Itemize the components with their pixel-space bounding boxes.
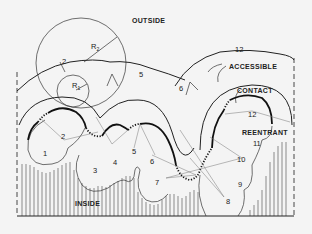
reentrant-label: REENTRANT bbox=[242, 129, 288, 136]
atom-7 bbox=[138, 170, 168, 202]
contact-arc-2 bbox=[48, 108, 86, 128]
atom-label-11: 11 bbox=[253, 139, 261, 148]
reentrant-arc-8-10 bbox=[200, 148, 212, 170]
atom-label-10: 10 bbox=[237, 155, 245, 164]
accessible-arc-label-6: 6 bbox=[179, 84, 183, 93]
molecular-surface-diagram: OUTSIDE INSIDE ACCESSIBLE CONTACT REENTR… bbox=[0, 0, 312, 234]
atom-2-lower bbox=[68, 128, 85, 148]
contact-label: CONTACT bbox=[237, 87, 273, 94]
accessible-arc-label-12: 12 bbox=[235, 45, 243, 54]
inside-label: INSIDE bbox=[75, 200, 100, 207]
reentrant-arc-2-4 bbox=[86, 128, 102, 136]
probe-r1-circle bbox=[57, 75, 89, 107]
atom-label-7: 7 bbox=[155, 178, 159, 187]
reentrant-arc-10-12 bbox=[224, 100, 230, 110]
atom-label-5: 5 bbox=[132, 147, 136, 156]
r2-label: R2 bbox=[91, 42, 99, 52]
atom-label-8: 8 bbox=[226, 197, 230, 206]
contact-envelope-left bbox=[19, 97, 100, 125]
accessible-label: ACCESSIBLE bbox=[229, 63, 277, 70]
reentrant-arc-7-8 bbox=[176, 165, 200, 180]
accessible-arc-label-2: 2 bbox=[62, 57, 66, 66]
r1-label: R1 bbox=[72, 81, 80, 91]
atom-4 bbox=[124, 167, 140, 182]
atom-8-side bbox=[199, 175, 206, 216]
atom-label-3: 3 bbox=[93, 166, 97, 175]
contact-label-12: 12 bbox=[248, 110, 256, 119]
contact-envelope-middle bbox=[100, 100, 194, 155]
atom-label-1: 1 bbox=[43, 149, 47, 158]
contact-arc-4 bbox=[102, 124, 128, 136]
atom-label-4: 4 bbox=[113, 158, 117, 167]
outside-label: OUTSIDE bbox=[132, 17, 165, 24]
atom-label-6: 6 bbox=[150, 157, 154, 166]
accessible-arc-label-5: 5 bbox=[139, 70, 143, 79]
accessible-arc-5 bbox=[110, 62, 185, 80]
contact-arc-6 bbox=[140, 123, 176, 165]
atom-label-2: 2 bbox=[61, 132, 65, 141]
construction-rays bbox=[40, 111, 290, 197]
reentrant-arc-4-5 bbox=[128, 124, 140, 130]
probe-r2-circle bbox=[36, 18, 126, 108]
probe-r2-radius bbox=[84, 37, 117, 62]
atom-label-9: 9 bbox=[238, 180, 242, 189]
